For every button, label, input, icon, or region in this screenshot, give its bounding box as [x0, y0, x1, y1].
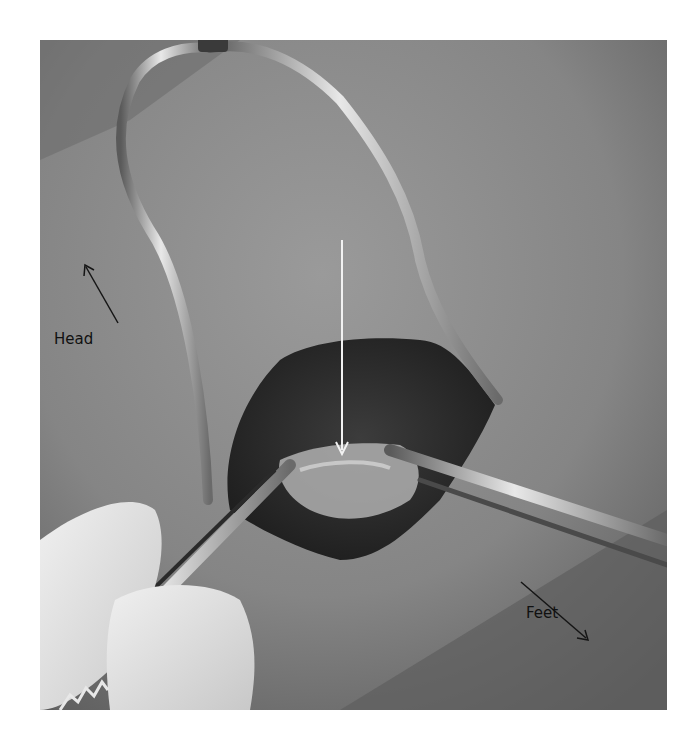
photo-illustration	[40, 40, 667, 710]
retractor-hinge	[198, 40, 228, 52]
glove-finger-2	[107, 585, 255, 710]
feet-label: Feet	[526, 604, 558, 622]
surgical-photo: Head Feet	[40, 40, 667, 710]
head-label: Head	[54, 330, 93, 348]
